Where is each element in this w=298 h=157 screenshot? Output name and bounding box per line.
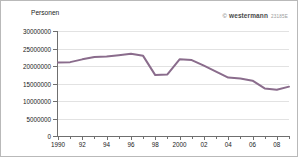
x-axis-tick: [204, 136, 205, 140]
y-axis-tick-label: 5000000: [26, 115, 51, 122]
x-axis-tick-minor: [265, 136, 266, 139]
y-axis-tick-label: 30000000: [23, 28, 51, 35]
x-axis-tick: [82, 136, 83, 140]
plot-area: [58, 31, 289, 136]
y-axis-tick-label: 15000000: [23, 80, 51, 87]
x-axis-tick-minor: [143, 136, 144, 139]
x-axis-tick-label: 04: [225, 141, 232, 148]
x-axis-tick: [180, 136, 181, 140]
x-axis-tick-label: 98: [152, 141, 159, 148]
x-axis-tick-label: 96: [127, 141, 134, 148]
x-axis-tick-minor: [192, 136, 193, 139]
x-axis-tick-minor: [94, 136, 95, 139]
series-line-personen: [58, 31, 289, 136]
x-axis-tick-label: 02: [200, 141, 207, 148]
x-axis-tick: [277, 136, 278, 140]
x-axis-tick-minor: [119, 136, 120, 139]
y-axis-tick-label: 25000000: [23, 45, 51, 52]
x-axis-tick: [131, 136, 132, 140]
watermark: © westermann 23185E: [223, 12, 288, 19]
series-path: [58, 54, 289, 90]
x-axis-tick: [58, 136, 59, 140]
y-axis-tick-label: 10000000: [23, 98, 51, 105]
x-axis-ticks: [58, 136, 289, 140]
x-axis-tick-label: 08: [273, 141, 280, 148]
x-axis-tick-label: 1990: [51, 141, 65, 148]
x-axis-tick-minor: [216, 136, 217, 139]
x-axis-tick-minor: [240, 136, 241, 139]
x-axis-tick-minor: [289, 136, 290, 139]
watermark-brand: westermann: [229, 12, 268, 19]
y-axis-tick-labels: 0500000010000000150000002000000025000000…: [1, 31, 51, 137]
y-axis-tick-label: 20000000: [23, 63, 51, 70]
copyright-icon: ©: [223, 13, 227, 19]
x-axis-tick: [228, 136, 229, 140]
x-axis-tick-label: 2000: [173, 141, 187, 148]
x-axis-tick: [107, 136, 108, 140]
x-axis-tick: [155, 136, 156, 140]
x-axis-tick-minor: [167, 136, 168, 139]
watermark-code: 23185E: [271, 14, 288, 19]
x-axis-tick-label: 92: [79, 141, 86, 148]
chart-figure: © westermann 23185E Personen 05000000100…: [0, 0, 298, 157]
x-axis-tick: [253, 136, 254, 140]
x-axis-tick-labels: 199092949698200002040608: [58, 141, 289, 153]
x-axis-tick-label: 94: [103, 141, 110, 148]
y-axis-tick-label: 0: [47, 133, 51, 140]
x-axis-tick-label: 06: [249, 141, 256, 148]
y-axis-title: Personen: [31, 9, 59, 16]
x-axis-tick-minor: [70, 136, 71, 139]
